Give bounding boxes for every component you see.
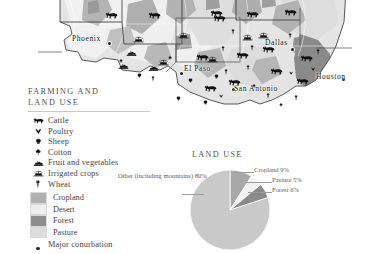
legend-label-2: Sheep [48, 137, 69, 148]
legend-label-3: Cotton [48, 148, 72, 159]
callout-other: Other (including mountains) 80% [118, 172, 188, 180]
city-label-houston: Houston [316, 72, 346, 81]
swatch-desert [30, 204, 47, 216]
legend-area-list: CroplandDesertForestPasture [28, 192, 178, 238]
leader-pasture [246, 182, 272, 183]
legend-area-label-3: Pasture [53, 227, 77, 239]
legend-item-cotton: Cotton [28, 148, 178, 159]
map-icon-sheep [214, 66, 219, 82]
legend-area-forest: Forest [28, 215, 178, 227]
legend-area-desert: Desert [28, 204, 178, 216]
sheep-icon [28, 137, 48, 148]
map-icon-cotton [252, 75, 256, 91]
map-icon-irrigated [258, 26, 269, 42]
callout-pasture: Pasture 5% [272, 176, 302, 184]
legend-label-6: Wheat [48, 180, 70, 191]
map-icon-wheat [221, 39, 225, 55]
legend-panel: FARMING AND LAND USE CattlePoultrySheepC… [28, 86, 178, 251]
city-dot-el-paso [180, 72, 183, 75]
map-icon-wheat [288, 26, 292, 42]
chart-title: LAND USE [192, 150, 243, 159]
swatch-forest [30, 215, 47, 227]
callout-cropland: Cropland 9% [254, 166, 289, 174]
map-icon-cattle [213, 9, 226, 25]
map-icon-poultry [219, 85, 223, 101]
city-dot-dallas [291, 48, 294, 51]
poultry-icon [28, 127, 48, 138]
map-icon-cotton [119, 50, 123, 66]
legend-item-fruit-and-vegetables: Fruit and vegetables [28, 158, 178, 169]
map-icon-cattle [148, 6, 161, 22]
city-dot-phoenix [108, 42, 111, 45]
city-label-phoenix: Phoenix [72, 34, 101, 43]
leader-forest [248, 192, 272, 193]
wheat-icon [28, 180, 48, 191]
irrigated-crops-icon [28, 169, 48, 180]
map-icon-wheat [224, 62, 228, 78]
map-icon-sheep [203, 92, 208, 108]
map-icon-wheat [231, 22, 235, 38]
farming-land-use-infographic: Phoenix El Paso Dallas San Antonio Houst… [0, 0, 366, 254]
legend-item-poultry: Poultry [28, 127, 178, 138]
legend-area-label-0: Cropland [53, 192, 84, 204]
legend-item-sheep: Sheep [28, 137, 178, 148]
swatch-cropland [30, 192, 47, 204]
map-icon-cotton [168, 47, 172, 63]
map-icon-cattle [105, 6, 118, 22]
legend-label-5: Irrigated crops [48, 169, 99, 180]
legend-area-label-2: Forest [53, 215, 74, 227]
legend-area-label-1: Desert [53, 204, 75, 216]
legend-title-line1: FARMING AND [28, 87, 99, 96]
map-icon-wheat [151, 69, 155, 85]
map-icon-wheat [294, 88, 298, 104]
map-icon-cattle [246, 5, 259, 21]
legend-area-cropland: Cropland [28, 192, 178, 204]
legend-label-4: Fruit and vegetables [48, 158, 118, 169]
map-icon-poultry [311, 58, 315, 74]
map-icon-cattle [262, 40, 275, 56]
leader-cropland [234, 172, 254, 173]
legend-item-wheat: Wheat [28, 180, 178, 191]
map-icon-irrigated [207, 50, 218, 66]
map-icon-irrigated [178, 26, 189, 42]
legend-label-0: Cattle [48, 116, 69, 127]
map-icon-cattle [228, 73, 241, 89]
legend-area-pasture: Pasture [28, 227, 178, 239]
leader-other [182, 194, 204, 195]
map-icon-wheat [250, 38, 254, 54]
map-icon-sheep [188, 70, 193, 86]
map-icon-wheat [246, 58, 250, 74]
cattle-icon [28, 116, 48, 127]
legend-title: FARMING AND LAND USE [28, 86, 178, 108]
map-icon-wheat [316, 42, 320, 58]
legend-label-major-conurbation: Major conurbation [48, 240, 113, 251]
legend-title-line2: LAND USE [28, 98, 79, 107]
map-icon-cattle [296, 72, 309, 88]
legend-label-1: Poultry [48, 127, 73, 138]
map-icon-cotton [279, 94, 283, 110]
map-icon-wheat [266, 86, 270, 102]
legend-item-cattle: Cattle [28, 116, 178, 127]
legend-item-major-conurbation: Major conurbation [28, 239, 178, 251]
cotton-icon [28, 148, 48, 159]
map-icon-poultry [289, 62, 293, 78]
fruit-icon [28, 158, 48, 169]
land-use-chart: LAND USE Other (including mountains) 80%… [186, 150, 366, 254]
legend-divider [28, 111, 150, 112]
map-icon-sheep [137, 65, 142, 81]
callout-forest: Forest 6% [272, 186, 299, 194]
map-icon-cattle [284, 3, 297, 19]
map-icon-cattle [270, 62, 283, 78]
major-conurbation-icon [28, 236, 48, 254]
